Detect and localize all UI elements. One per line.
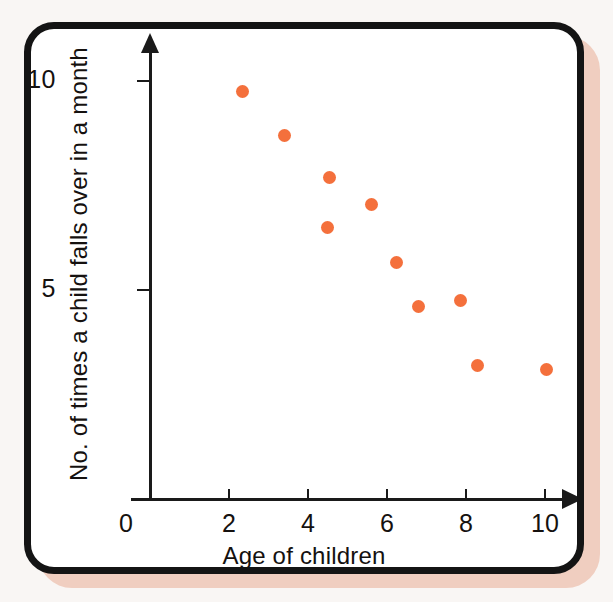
chart-card-frame: 510 0246810 Age of children No. of times… [24, 22, 584, 574]
x-tick-mark [465, 489, 467, 501]
x-tick-label: 8 [446, 509, 486, 538]
scatter-data-point [321, 221, 334, 234]
scatter-data-point [471, 359, 484, 372]
x-tick-mark [307, 489, 309, 501]
scatter-data-point [365, 198, 378, 211]
x-tick-label: 2 [209, 509, 249, 538]
x-axis-line [131, 498, 567, 501]
x-tick-label: 10 [525, 509, 565, 538]
scatter-data-point [323, 171, 336, 184]
y-axis-title: No. of times a child falls over in a mon… [65, 81, 93, 481]
scatter-data-point [540, 363, 553, 376]
scatter-plot-area: 510 0246810 Age of children No. of times… [31, 29, 577, 567]
x-tick-mark [386, 489, 388, 501]
x-tick-label: 4 [288, 509, 328, 538]
x-axis-arrowhead-icon [562, 489, 583, 509]
x-tick-label: 6 [367, 509, 407, 538]
scatter-data-point [390, 256, 403, 269]
scatter-data-point [454, 294, 467, 307]
y-tick-label: 5 [42, 274, 56, 303]
y-tick-mark [137, 289, 150, 291]
y-tick-label: 10 [27, 65, 56, 94]
scatter-data-point [412, 300, 425, 313]
y-axis-arrowhead-icon [141, 33, 159, 53]
x-tick-mark [228, 489, 230, 501]
page-root: 510 0246810 Age of children No. of times… [0, 0, 613, 602]
x-tick-label: 0 [106, 509, 146, 538]
x-tick-mark [544, 489, 546, 501]
scatter-data-point [278, 129, 291, 142]
x-axis-title: Age of children [31, 542, 577, 570]
y-axis-line [149, 49, 152, 501]
scatter-data-point [236, 85, 249, 98]
y-tick-mark [137, 80, 150, 82]
